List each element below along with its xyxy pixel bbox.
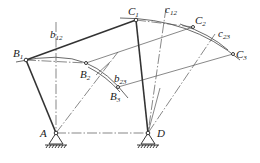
linkage-diagram: B1 B2 B3 C1 C2 C3 A D b12 b23 c12 c23 — [0, 0, 260, 163]
joint-a — [54, 131, 58, 135]
label-b12: b12 — [50, 28, 63, 42]
joint-b1 — [24, 58, 28, 62]
label-b2: B2 — [80, 68, 91, 82]
label-b3: B3 — [110, 90, 121, 104]
link-d-c1 — [136, 20, 148, 133]
link-b1-c1 — [26, 20, 136, 60]
label-d: D — [156, 127, 165, 139]
bisector-c23-line — [148, 34, 215, 133]
ground-support-d — [137, 133, 159, 148]
label-c3: C3 — [236, 48, 247, 62]
label-b1: B1 — [13, 47, 23, 61]
line-b3-c3 — [118, 54, 233, 87]
line-c1-c2 — [136, 20, 193, 27]
label-c23: c23 — [218, 27, 230, 41]
joint-c3 — [232, 53, 235, 56]
bisector-c12-line — [148, 8, 166, 133]
label-a: A — [39, 127, 47, 139]
joint-d — [146, 131, 150, 135]
joint-b2 — [85, 62, 88, 65]
label-c12: c12 — [165, 3, 177, 17]
label-c1: C1 — [128, 5, 139, 19]
link-a-b1 — [26, 60, 56, 133]
label-c2: C2 — [195, 14, 206, 28]
ground-support-a — [45, 133, 67, 148]
label-b23: b23 — [114, 72, 127, 86]
